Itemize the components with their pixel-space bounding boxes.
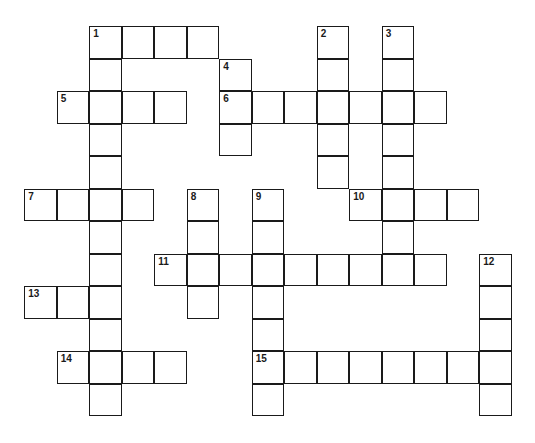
- crossword-cell[interactable]: [89, 319, 122, 352]
- crossword-cell[interactable]: 15: [252, 351, 285, 384]
- crossword-cell[interactable]: [317, 124, 350, 157]
- clue-number: 8: [191, 192, 197, 202]
- clue-number: 7: [28, 192, 34, 202]
- crossword-cell[interactable]: [187, 26, 220, 59]
- crossword-cell[interactable]: [382, 221, 415, 254]
- crossword-cell[interactable]: [382, 91, 415, 124]
- crossword-cell[interactable]: [89, 156, 122, 189]
- crossword-cell[interactable]: [89, 351, 122, 384]
- crossword-cell[interactable]: [154, 91, 187, 124]
- crossword-cell[interactable]: 5: [57, 91, 90, 124]
- crossword-cell[interactable]: [479, 351, 512, 384]
- crossword-cell[interactable]: [317, 254, 350, 287]
- crossword-cell[interactable]: [349, 351, 382, 384]
- crossword-cell[interactable]: [414, 254, 447, 287]
- crossword-cell[interactable]: [89, 91, 122, 124]
- clue-number: 15: [256, 354, 267, 364]
- crossword-cell[interactable]: [317, 91, 350, 124]
- crossword-cell[interactable]: [382, 156, 415, 189]
- crossword-cell[interactable]: [479, 319, 512, 352]
- crossword-cell[interactable]: [219, 254, 252, 287]
- crossword-cell[interactable]: [122, 189, 155, 222]
- crossword-cell[interactable]: [414, 351, 447, 384]
- crossword-cell[interactable]: [122, 351, 155, 384]
- clue-number: 5: [61, 94, 67, 104]
- crossword-cell[interactable]: [187, 254, 220, 287]
- crossword-cell[interactable]: 1: [89, 26, 122, 59]
- crossword-cell[interactable]: 8: [187, 189, 220, 222]
- crossword-cell[interactable]: 14: [57, 351, 90, 384]
- crossword-cell[interactable]: [57, 189, 90, 222]
- clue-number: 9: [256, 192, 262, 202]
- clue-number: 3: [386, 29, 392, 39]
- crossword-cell[interactable]: [154, 26, 187, 59]
- clue-number: 1: [93, 29, 99, 39]
- crossword-cell[interactable]: [252, 221, 285, 254]
- crossword-cell[interactable]: 4: [219, 59, 252, 92]
- crossword-cell[interactable]: [154, 351, 187, 384]
- crossword-cell[interactable]: [317, 156, 350, 189]
- crossword-cell[interactable]: [252, 384, 285, 417]
- crossword-cell[interactable]: 13: [24, 286, 57, 319]
- crossword-cell[interactable]: [252, 91, 285, 124]
- crossword-cell[interactable]: [187, 286, 220, 319]
- crossword-cell[interactable]: [447, 351, 480, 384]
- crossword-cell[interactable]: 10: [349, 189, 382, 222]
- crossword-cell[interactable]: 6: [219, 91, 252, 124]
- crossword-cell[interactable]: [89, 254, 122, 287]
- clue-number: 11: [158, 257, 169, 267]
- crossword-cell[interactable]: [382, 59, 415, 92]
- crossword-grid: 123465789151011121314: [0, 0, 535, 443]
- crossword-cell[interactable]: [252, 319, 285, 352]
- crossword-cell[interactable]: [89, 124, 122, 157]
- crossword-cell[interactable]: [447, 189, 480, 222]
- crossword-cell[interactable]: [382, 124, 415, 157]
- crossword-cell[interactable]: [122, 91, 155, 124]
- crossword-cell[interactable]: 12: [479, 254, 512, 287]
- crossword-cell[interactable]: [284, 351, 317, 384]
- clue-number: 6: [223, 94, 229, 104]
- crossword-cell[interactable]: [187, 221, 220, 254]
- crossword-cell[interactable]: [219, 124, 252, 157]
- crossword-cell[interactable]: [349, 91, 382, 124]
- clue-number: 10: [353, 192, 364, 202]
- crossword-cell[interactable]: [284, 254, 317, 287]
- crossword-cell[interactable]: [414, 189, 447, 222]
- crossword-cell[interactable]: [89, 384, 122, 417]
- clue-number: 4: [223, 62, 229, 72]
- crossword-cell[interactable]: [414, 91, 447, 124]
- crossword-cell[interactable]: [382, 189, 415, 222]
- crossword-cell[interactable]: 3: [382, 26, 415, 59]
- crossword-cell[interactable]: [122, 26, 155, 59]
- crossword-cell[interactable]: [89, 221, 122, 254]
- crossword-cell[interactable]: [57, 286, 90, 319]
- clue-number: 12: [483, 257, 494, 267]
- crossword-cell[interactable]: [252, 286, 285, 319]
- crossword-cell[interactable]: 11: [154, 254, 187, 287]
- crossword-cell[interactable]: [89, 189, 122, 222]
- crossword-cell[interactable]: 7: [24, 189, 57, 222]
- crossword-cell[interactable]: [89, 286, 122, 319]
- clue-number: 13: [28, 289, 39, 299]
- crossword-cell[interactable]: [479, 384, 512, 417]
- clue-number: 2: [321, 29, 327, 39]
- crossword-cell[interactable]: [317, 59, 350, 92]
- crossword-cell[interactable]: [284, 91, 317, 124]
- crossword-cell[interactable]: [349, 254, 382, 287]
- crossword-cell[interactable]: [252, 254, 285, 287]
- crossword-cell[interactable]: [382, 351, 415, 384]
- crossword-cell[interactable]: 9: [252, 189, 285, 222]
- crossword-cell[interactable]: [89, 59, 122, 92]
- crossword-cell[interactable]: 2: [317, 26, 350, 59]
- crossword-cell[interactable]: [317, 351, 350, 384]
- clue-number: 14: [61, 354, 72, 364]
- crossword-cell[interactable]: [479, 286, 512, 319]
- crossword-cell[interactable]: [382, 254, 415, 287]
